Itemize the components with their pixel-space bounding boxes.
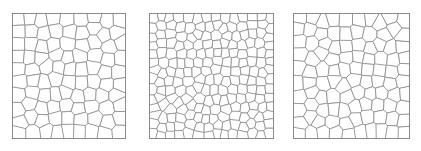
tessellation-panel-2 — [149, 13, 274, 139]
voronoi-figure — [0, 0, 421, 151]
tessellation-panel-3 — [293, 13, 410, 139]
tessellation-panel-1 — [12, 13, 126, 139]
